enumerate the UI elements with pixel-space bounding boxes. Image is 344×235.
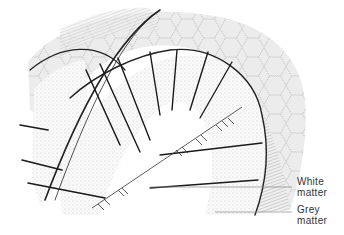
grey-matter-label-line1: Grey	[297, 204, 327, 215]
white-matter-label-line1: White	[297, 176, 327, 187]
grey-matter-label: Grey matter	[297, 204, 327, 226]
white-matter-label-line2: matter	[297, 187, 327, 198]
white-matter-label: White matter	[297, 176, 327, 198]
cortex-diagram	[0, 0, 344, 235]
grey-matter-label-line2: matter	[297, 215, 327, 226]
